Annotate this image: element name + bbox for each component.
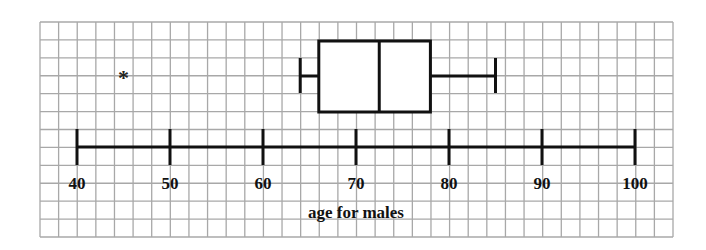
tick-label: 40 bbox=[69, 174, 86, 193]
x-axis-title: age for males bbox=[308, 203, 404, 222]
number-line-axis bbox=[77, 129, 635, 165]
tick-label: 50 bbox=[162, 174, 179, 193]
tick-label: 70 bbox=[348, 174, 365, 193]
tick-label: 80 bbox=[441, 174, 458, 193]
box-and-whisker: * bbox=[118, 41, 496, 112]
iqr-box bbox=[319, 41, 431, 112]
tick-label: 60 bbox=[255, 174, 272, 193]
box-plot-chart: 405060708090100 * age for males bbox=[0, 0, 706, 250]
tick-label: 100 bbox=[622, 174, 648, 193]
tick-label: 90 bbox=[534, 174, 551, 193]
outlier-marker: * bbox=[118, 65, 129, 90]
